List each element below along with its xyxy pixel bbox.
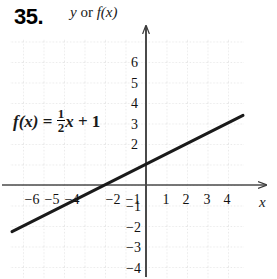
page-title: 35. (14, 4, 43, 30)
y-tick-label: −3 (126, 240, 141, 256)
x-tick-label: −6 (25, 192, 40, 208)
y-tick-label: −2 (126, 220, 141, 236)
equation-plus: + (74, 112, 92, 131)
fraction-numerator: 1 (57, 107, 66, 120)
y-tick-label: −1 (126, 199, 141, 215)
equation-variable: x (65, 112, 74, 131)
y-tick-label: 3 (131, 117, 138, 133)
coordinate-plane (0, 0, 277, 279)
x-tick-label: −5 (45, 192, 60, 208)
y-tick-label: −4 (126, 261, 141, 277)
x-tick-label: −4 (65, 192, 80, 208)
y-tick-label: 5 (131, 76, 138, 92)
fraction-denominator: 2 (57, 120, 66, 134)
y-axis-title-y: y (70, 4, 77, 20)
y-axis-title: y or f(x) (70, 4, 118, 21)
y-axis-title-conjunction: or (77, 4, 97, 20)
x-tick-label: 3 (204, 192, 211, 208)
x-tick-label: 2 (183, 192, 190, 208)
y-axis-title-fx: f(x) (97, 4, 118, 20)
figure-container: 35. y or f(x) f(x) = 12x + 1 −6−5−4−2−11… (0, 0, 277, 279)
x-tick-label: −2 (106, 192, 121, 208)
equation-constant: 1 (92, 112, 101, 131)
equation-equals: = (38, 112, 56, 131)
x-axis-title: x (259, 194, 266, 211)
x-tick-label: 4 (224, 192, 231, 208)
y-tick-label: 6 (131, 55, 138, 71)
x-tick-label: 1 (163, 192, 170, 208)
y-tick-label: 2 (131, 137, 138, 153)
y-tick-label: 4 (131, 96, 138, 112)
equation-label: f(x) = 12x + 1 (13, 107, 100, 135)
equation-lhs: f(x) (13, 112, 38, 131)
equation-fraction: 12 (57, 107, 66, 135)
